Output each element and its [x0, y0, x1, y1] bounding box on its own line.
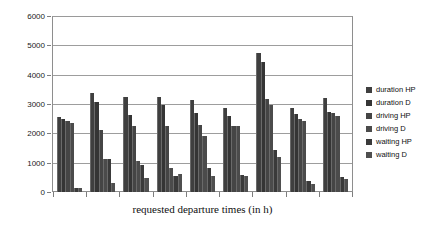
x-axis-tick-mark: [319, 192, 320, 197]
y-axis-tick-mark: [47, 75, 51, 76]
y-axis-tick-mark: [47, 16, 51, 17]
bar-group: [223, 17, 248, 192]
legend-label: waiting D: [376, 150, 407, 159]
x-axis-tick-mark: [252, 192, 253, 197]
y-axis-tick-mark: [47, 133, 51, 134]
y-axis-tick-label: 5000: [27, 41, 45, 50]
y-axis-tick-label: 1000: [27, 158, 45, 167]
legend-swatch-icon: [366, 126, 372, 132]
legend-label: waiting HP: [376, 137, 412, 146]
y-axis: 0100020003000400050006000: [0, 0, 52, 200]
legend-label: duration D: [376, 98, 411, 107]
y-axis-tick-label: 2000: [27, 129, 45, 138]
legend-item: waiting D: [366, 149, 416, 160]
y-axis-tick-label: 4000: [27, 70, 45, 79]
bar: [144, 178, 148, 192]
bar: [78, 188, 82, 192]
x-axis-tick-mark: [119, 192, 120, 197]
legend-label: duration HP: [376, 85, 416, 94]
bar: [344, 179, 348, 192]
legend-item: duration HP: [366, 84, 416, 95]
x-axis-tick-mark: [153, 192, 154, 197]
bar-group: [290, 17, 315, 192]
y-axis-tick-label: 3000: [27, 100, 45, 109]
y-axis-tick-mark: [47, 45, 51, 46]
legend-label: driving HP: [376, 111, 411, 120]
x-axis-tick-mark: [352, 192, 353, 197]
legend-swatch-icon: [366, 100, 372, 106]
bar-group: [256, 17, 281, 192]
legend-item: waiting HP: [366, 136, 416, 147]
legend-swatch-icon: [366, 113, 372, 119]
x-axis-tick-mark: [86, 192, 87, 197]
x-axis-tick-mark: [219, 192, 220, 197]
y-axis-tick-mark: [47, 104, 51, 105]
bar-group: [123, 17, 148, 192]
x-axis-tick-mark: [186, 192, 187, 197]
y-axis-tick-mark: [47, 163, 51, 164]
bar-chart-figure: 0100020003000400050006000 requested depa…: [0, 0, 442, 239]
legend-label: driving D: [376, 124, 406, 133]
x-axis-tick-mark: [53, 192, 54, 197]
bars-layer: [53, 17, 352, 192]
bar: [244, 176, 248, 192]
bar-group: [323, 17, 348, 192]
legend-item: driving D: [366, 123, 416, 134]
y-axis-tick-label: 6000: [27, 12, 45, 21]
bar: [277, 157, 281, 192]
y-axis-tick-mark: [47, 192, 51, 193]
bar: [311, 184, 315, 192]
bar: [211, 176, 215, 192]
legend-swatch-icon: [366, 87, 372, 93]
bar: [111, 183, 115, 192]
legend: duration HPduration Ddriving HPdriving D…: [366, 84, 416, 160]
legend-item: driving HP: [366, 110, 416, 121]
bar-group: [90, 17, 115, 192]
legend-swatch-icon: [366, 152, 372, 158]
bar-group: [157, 17, 182, 192]
y-axis-tick-label: 0: [41, 188, 45, 197]
legend-item: duration D: [366, 97, 416, 108]
bar: [70, 123, 74, 192]
x-axis-tick-mark: [286, 192, 287, 197]
bar-group: [190, 17, 215, 192]
legend-swatch-icon: [366, 139, 372, 145]
bar-group: [57, 17, 82, 192]
x-axis-label: requested departure times (in h): [52, 203, 353, 215]
bar: [178, 174, 182, 192]
